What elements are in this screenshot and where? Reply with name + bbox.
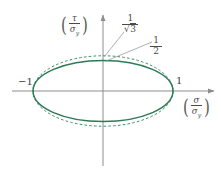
x-axis-label-numerator: σ — [193, 96, 201, 105]
paren-open-icon: ( — [61, 17, 67, 33]
x-axis-label: ( σ σy ) — [182, 96, 211, 118]
paren-close-icon: ) — [204, 99, 210, 115]
annotation-one-half: 1 2 — [150, 30, 162, 57]
yield-criterion-figure: ( τ σy ) 1 √3 1 2 −1 1 ( — [0, 0, 221, 174]
sqrt3-denominator: √3 — [122, 25, 138, 34]
x-tick-label-negative-one: −1 — [18, 77, 33, 87]
y-axis-label-numerator: τ — [71, 14, 78, 23]
annotation-one-over-sqrt3: 1 √3 — [122, 8, 138, 35]
plot-canvas — [0, 0, 221, 174]
half-denominator: 2 — [151, 47, 161, 56]
paren-close-icon: ) — [82, 17, 88, 33]
x-axis-label-denominator: σy — [191, 107, 202, 118]
y-axis-label-denominator: σy — [69, 25, 80, 36]
half-numerator: 1 — [151, 36, 161, 45]
leader-line-sqrt3 — [105, 32, 125, 57]
paren-open-icon: ( — [183, 99, 189, 115]
y-axis-label: ( τ σy ) — [60, 14, 89, 36]
x-tick-label-positive-one: 1 — [176, 76, 182, 86]
sqrt3-numerator: 1 — [125, 14, 135, 23]
